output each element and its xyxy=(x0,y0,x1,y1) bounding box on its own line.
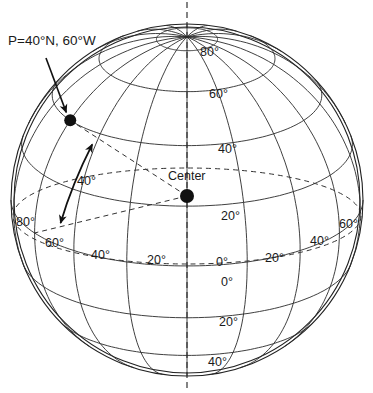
lat-label-40: 40° xyxy=(218,142,237,156)
lat-label-60: 60° xyxy=(209,87,228,101)
lon-label-0: 0° xyxy=(216,255,228,269)
center-marker xyxy=(180,189,194,203)
lon-label-e20: 20° xyxy=(265,251,284,265)
radius-to-equator-line xyxy=(35,196,187,233)
lon-label-w80: 80° xyxy=(16,215,35,229)
lat-label-s40: 40° xyxy=(208,355,227,369)
lat-label-0: 0° xyxy=(221,275,233,289)
pointer-arrow xyxy=(46,58,66,112)
center-label: Center xyxy=(168,169,206,183)
lon-label-e40: 40° xyxy=(310,234,329,248)
lat-label-20: 20° xyxy=(221,209,240,223)
lon-label-e60: 60° xyxy=(339,217,358,231)
angle-label: 40° xyxy=(77,174,96,188)
lon-label-w20: 20° xyxy=(147,253,166,267)
lat-label-s20: 20° xyxy=(219,315,238,329)
lat-label-80: 80° xyxy=(200,45,219,59)
lon-label-w60: 60° xyxy=(45,236,64,250)
meridian--100 xyxy=(29,36,187,123)
point-p-marker xyxy=(64,114,76,126)
globe-diagram: P=40°N, 60°W Center 40° 80° 60° 40° 20° … xyxy=(0,0,373,393)
point-label: P=40°N, 60°W xyxy=(8,33,96,48)
lon-label-w40: 40° xyxy=(91,248,110,262)
